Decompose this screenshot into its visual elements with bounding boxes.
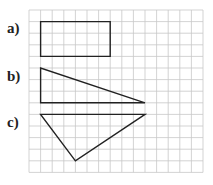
grid-lines (29, 10, 203, 172)
grid-figure (0, 0, 213, 185)
shape-b-right-triangle (41, 68, 145, 103)
